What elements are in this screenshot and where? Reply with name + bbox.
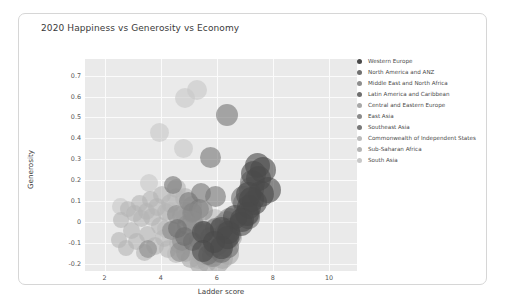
scatter-bubble[interactable] <box>216 104 238 126</box>
scatter-bubble[interactable] <box>168 219 187 238</box>
legend-item-label: North America and ANZ <box>368 70 434 76</box>
y-axis-tick-label: 0.6 <box>47 93 81 101</box>
legend-item-label: East Asia <box>368 114 394 120</box>
y-axis-tick-label: 0.5 <box>47 113 81 121</box>
scatter-bubble[interactable] <box>150 123 169 142</box>
gridline-vertical <box>329 59 330 271</box>
page-title: 2020 Happiness vs Generosity vs Economy <box>41 23 239 33</box>
legend-item-0[interactable]: Western Europe <box>357 56 487 67</box>
y-axis-tick-label: 0.7 <box>47 72 81 80</box>
legend-marker-icon <box>357 136 362 141</box>
legend-marker-icon <box>357 158 362 163</box>
scatter-bubble[interactable] <box>139 240 157 258</box>
scatter-bubble[interactable] <box>200 147 221 168</box>
gridline-horizontal <box>85 159 357 160</box>
legend-marker-icon <box>357 125 362 130</box>
chart-card: 2020 Happiness vs Generosity vs Economy … <box>18 13 487 285</box>
y-axis-tick-label: -0.2 <box>47 260 81 268</box>
x-axis-title: Ladder score <box>85 287 357 296</box>
x-axis-ticks: 246810 <box>85 274 357 286</box>
legend-item-4[interactable]: Central and Eastern Europe <box>357 100 487 111</box>
gridline-vertical <box>105 59 106 271</box>
legend-marker-icon <box>357 59 362 64</box>
legend-item-5[interactable]: East Asia <box>357 111 487 122</box>
y-axis-tick-label: 0.2 <box>47 176 81 184</box>
legend-marker-icon <box>357 70 362 75</box>
gridline-horizontal <box>85 180 357 181</box>
scatter-bubble[interactable] <box>174 139 193 158</box>
y-axis-tick-label: 0.4 <box>47 134 81 142</box>
legend-marker-icon <box>357 147 362 152</box>
y-axis-tick-label: -0.1 <box>47 239 81 247</box>
x-axis-tick-label: 4 <box>159 274 163 282</box>
legend-item-6[interactable]: Southeast Asia <box>357 122 487 133</box>
x-axis-tick-label: 8 <box>271 274 275 282</box>
y-axis-ticks: 0.70.60.50.40.30.20.10-0.1-0.2 <box>45 59 81 271</box>
scatter-bubble[interactable] <box>175 88 195 108</box>
x-axis-tick-label: 6 <box>215 274 219 282</box>
x-axis-tick-label: 10 <box>325 274 333 282</box>
legend-marker-icon <box>357 103 362 108</box>
legend-item-label: Western Europe <box>368 59 412 65</box>
x-axis-tick-label: 2 <box>103 274 107 282</box>
legend-item-3[interactable]: Latin America and Caribbean <box>357 89 487 100</box>
plot-area[interactable] <box>85 59 357 271</box>
legend-item-label: Sub-Saharan Africa <box>368 147 422 153</box>
legend-item-label: Southeast Asia <box>368 125 410 131</box>
legend-item-2[interactable]: Middle East and North Africa <box>357 78 487 89</box>
legend-marker-icon <box>357 92 362 97</box>
legend-item-label: Commonwealth of Independent States <box>368 136 476 142</box>
y-axis-tick-label: 0.3 <box>47 155 81 163</box>
scatter-bubble[interactable] <box>113 212 129 228</box>
legend-item-1[interactable]: North America and ANZ <box>357 67 487 78</box>
legend-marker-icon <box>357 81 362 86</box>
legend-item-label: South Asia <box>368 158 398 164</box>
legend[interactable]: Western EuropeNorth America and ANZMiddl… <box>357 56 487 166</box>
gridline-horizontal <box>85 76 357 77</box>
legend-item-8[interactable]: Sub-Saharan Africa <box>357 144 487 155</box>
legend-marker-icon <box>357 114 362 119</box>
y-axis-tick-label: 0.1 <box>47 197 81 205</box>
gridline-horizontal <box>85 138 357 139</box>
y-axis-tick-label: 0 <box>47 218 81 226</box>
legend-item-9[interactable]: South Asia <box>357 155 487 166</box>
y-axis-title: Generosity <box>26 135 35 205</box>
legend-item-label: Central and Eastern Europe <box>368 103 445 109</box>
legend-item-label: Middle East and North Africa <box>368 81 448 87</box>
legend-item-label: Latin America and Caribbean <box>368 92 449 98</box>
gridline-horizontal <box>85 97 357 98</box>
legend-item-7[interactable]: Commonwealth of Independent States <box>357 133 487 144</box>
